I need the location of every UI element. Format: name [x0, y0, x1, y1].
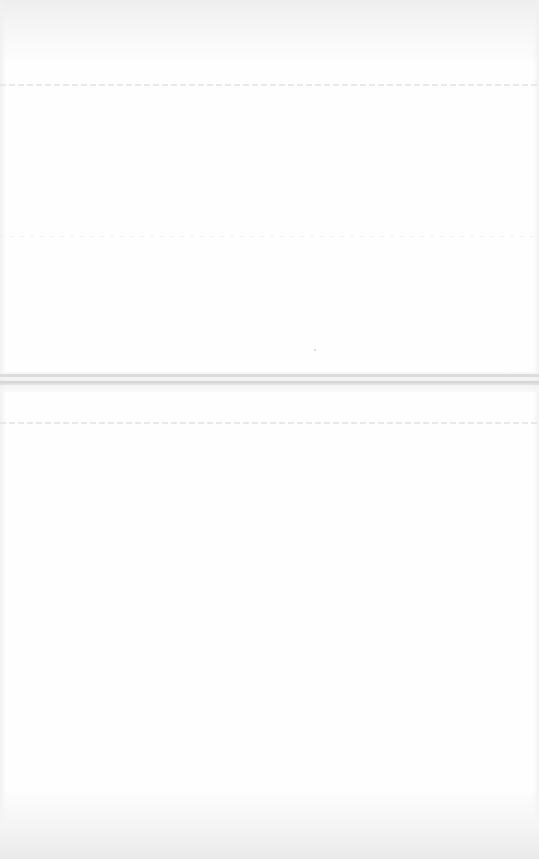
speck-mark [314, 349, 316, 351]
horizontal-separator [0, 372, 539, 392]
separator-line-upper [0, 374, 539, 377]
top-band [0, 0, 539, 60]
faint-rule-middle [0, 236, 539, 237]
left-edge-shadow [0, 0, 6, 859]
bottom-vignette [0, 789, 539, 859]
right-edge-shadow [533, 0, 539, 859]
faint-dotted-rule-top [0, 84, 539, 86]
separator-line-lower [0, 381, 539, 385]
faint-dotted-rule-lower [0, 422, 539, 424]
blank-page [0, 0, 539, 859]
